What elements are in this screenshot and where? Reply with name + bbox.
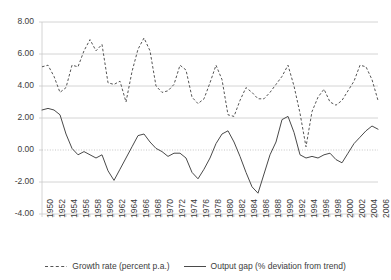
solid-line-swatch-icon <box>184 263 206 270</box>
x-axis-tick-label: 1970 <box>166 199 175 218</box>
x-axis-tick-label: 1960 <box>106 199 115 218</box>
legend-item-growth-rate: Growth rate (percent p.a.) <box>45 261 169 271</box>
y-tick-marks-group <box>39 22 42 214</box>
x-axis-tick-label: 1988 <box>274 199 283 218</box>
x-axis-tick-label: 1994 <box>310 199 319 218</box>
x-axis-tick-label: 1956 <box>82 199 91 218</box>
x-axis-tick-label: 1958 <box>94 199 103 218</box>
x-axis-tick-label: 1990 <box>286 199 295 218</box>
x-axis-tick-label: 2006 <box>382 199 391 218</box>
y-axis-tick-label: 2.00 <box>0 113 34 122</box>
x-axis-tick-label: 1976 <box>202 199 211 218</box>
x-axis-tick-label: 1996 <box>322 199 331 218</box>
chart-legend: Growth rate (percent p.a.) Output gap (%… <box>0 261 391 271</box>
chart-container: 8.006.004.002.000.00-2.00-4.00 195019521… <box>0 0 391 280</box>
x-axis-tick-label: 2002 <box>358 199 367 218</box>
x-axis-tick-label: 1984 <box>250 199 259 218</box>
x-axis-tick-label: 1972 <box>178 199 187 218</box>
x-axis-tick-label: 2000 <box>346 199 355 218</box>
x-axis-tick-label: 1962 <box>118 199 127 218</box>
x-axis-tick-label: 1992 <box>298 199 307 218</box>
x-axis-tick-label: 1980 <box>226 199 235 218</box>
x-axis-tick-label: 1974 <box>190 199 199 218</box>
legend-label-output-gap: Output gap (% deviation from trend) <box>211 261 346 271</box>
x-axis-tick-label: 1952 <box>58 199 67 218</box>
x-axis-tick-label: 1954 <box>70 199 79 218</box>
legend-label-growth-rate: Growth rate (percent p.a.) <box>72 261 169 271</box>
series-line-output-gap <box>42 108 378 193</box>
legend-item-output-gap: Output gap (% deviation from trend) <box>184 261 346 271</box>
y-axis-tick-label: 0.00 <box>0 145 34 154</box>
y-axis-tick-label: 4.00 <box>0 81 34 90</box>
x-axis-tick-label: 1966 <box>142 199 151 218</box>
y-axis-tick-label: 6.00 <box>0 49 34 58</box>
x-axis-tick-label: 1998 <box>334 199 343 218</box>
dashed-line-swatch-icon <box>45 263 67 270</box>
chart-plot-area <box>0 0 391 280</box>
x-axis-tick-label: 1982 <box>238 199 247 218</box>
x-axis-tick-label: 1964 <box>130 199 139 218</box>
x-axis-tick-label: 1950 <box>46 199 55 218</box>
x-axis-tick-label: 1986 <box>262 199 271 218</box>
y-axis-tick-label: -2.00 <box>0 177 34 186</box>
y-axis-tick-label: -4.00 <box>0 209 34 218</box>
y-axis-tick-label: 8.00 <box>0 17 34 26</box>
gridlines-group <box>42 22 378 214</box>
x-axis-tick-label: 2004 <box>370 199 379 218</box>
x-axis-tick-label: 1968 <box>154 199 163 218</box>
x-axis-tick-label: 1978 <box>214 199 223 218</box>
